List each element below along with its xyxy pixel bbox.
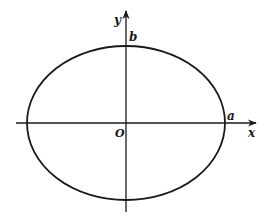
x-axis-label: x (247, 126, 256, 140)
minor-axis-label-b: b (129, 30, 137, 44)
origin-label: O (115, 127, 125, 140)
ellipse-diagram: y b O a x (0, 0, 270, 222)
y-axis-label: y (113, 13, 122, 27)
major-axis-label-a: a (227, 109, 235, 123)
